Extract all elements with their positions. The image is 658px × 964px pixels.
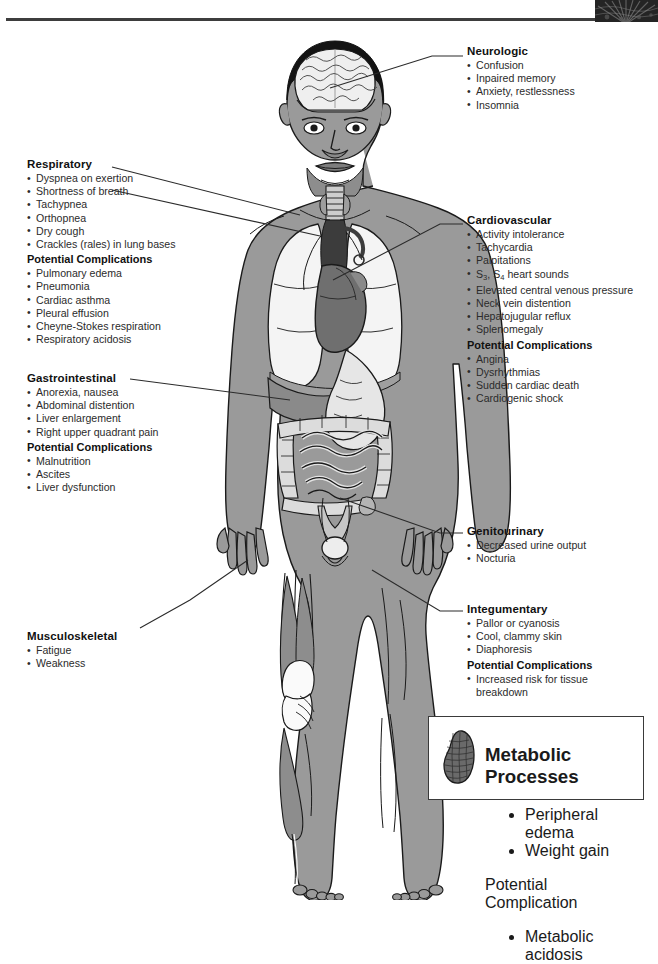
symptom-list: Pallor or cyanosis Cool, clammy skin Dia… bbox=[467, 617, 647, 657]
kidney-icon bbox=[441, 729, 475, 785]
complications-heading: Potential Complications bbox=[467, 339, 647, 352]
header-divider-rule bbox=[6, 18, 640, 21]
complications-heading: Potential Complications bbox=[27, 253, 217, 266]
list-item: Palpitations bbox=[467, 254, 647, 267]
brain bbox=[295, 49, 377, 112]
list-item: Sudden cardiac death bbox=[467, 379, 647, 392]
list-item: Weakness bbox=[27, 657, 207, 670]
list-item: Pallor or cyanosis bbox=[467, 617, 647, 630]
list-item-heart-sounds: S3, S4 heart sounds bbox=[467, 268, 647, 284]
list-item: Liver enlargement bbox=[27, 412, 212, 425]
list-item: Right upper quadrant pain bbox=[27, 426, 212, 439]
callout-heading: Gastrointestinal bbox=[27, 372, 212, 385]
list-item: Liver dysfunction bbox=[27, 481, 212, 494]
list-item: Anxiety, restlessness bbox=[467, 85, 647, 98]
list-item: Pneumonia bbox=[27, 280, 217, 293]
list-item: Insomnia bbox=[467, 99, 647, 112]
list-item: Inpaired memory bbox=[467, 72, 647, 85]
list-item: Diaphoresis bbox=[467, 643, 647, 656]
callout-gastrointestinal: Gastrointestinal Anorexia, nausea Abdomi… bbox=[27, 372, 212, 494]
symptom-list: Fatigue Weakness bbox=[27, 644, 207, 670]
list-item: Shortness of breath bbox=[27, 185, 217, 198]
list-item: Splenomegaly bbox=[467, 323, 647, 336]
callout-heading: Cardiovascular bbox=[467, 214, 647, 227]
list-item: Confusion bbox=[467, 59, 647, 72]
list-item: Cardiac asthma bbox=[27, 294, 217, 307]
list-item: Elevated central venous pressure bbox=[467, 284, 647, 297]
list-item: Hepatojugular reflux bbox=[467, 310, 647, 323]
list-item: Dyspnea on exertion bbox=[27, 172, 217, 185]
complications-heading: Potential Complication bbox=[485, 876, 643, 912]
symptom-list: Decreased urine output Nocturia bbox=[467, 539, 647, 565]
head bbox=[279, 41, 390, 184]
callout-heading: Genitourinary bbox=[467, 525, 647, 538]
metabolic-text: Metabolic Processes Peripheral edema Wei… bbox=[485, 725, 643, 964]
list-item: Anorexia, nausea bbox=[27, 386, 212, 399]
list-item: Peripheral edema bbox=[525, 806, 643, 842]
list-item: Fatigue bbox=[27, 644, 207, 657]
list-item: Orthopnea bbox=[27, 212, 217, 225]
corner-thumbnail-image bbox=[595, 0, 658, 22]
callout-heading: Musculoskeletal bbox=[27, 630, 207, 643]
complications-list: Metabolic acidosis bbox=[485, 928, 643, 964]
list-item: Nocturia bbox=[467, 552, 647, 565]
complications-list: Malnutrition Ascites Liver dysfunction bbox=[27, 455, 212, 495]
list-item: Malnutrition bbox=[27, 455, 212, 468]
callout-musculoskeletal: Musculoskeletal Fatigue Weakness bbox=[27, 630, 207, 670]
list-item: Angina bbox=[467, 353, 647, 366]
list-item: Dysrhythmias bbox=[467, 366, 647, 379]
list-item: Dry cough bbox=[27, 225, 217, 238]
symptom-list: Peripheral edema Weight gain bbox=[485, 806, 643, 860]
list-item: Cheyne-Stokes respiration bbox=[27, 320, 217, 333]
list-item: Cool, clammy skin bbox=[467, 630, 647, 643]
callout-heading: Neurologic bbox=[467, 45, 647, 58]
heart bbox=[315, 220, 367, 352]
complications-heading: Potential Complications bbox=[467, 659, 647, 672]
list-item: Cardiogenic shock bbox=[467, 392, 647, 405]
callout-genitourinary: Genitourinary Decreased urine output Noc… bbox=[467, 525, 647, 565]
complications-list: Increased risk for tissue breakdown bbox=[467, 673, 647, 699]
list-item: Metabolic acidosis bbox=[525, 928, 643, 964]
heart-sound-suffix: heart sounds bbox=[505, 268, 569, 280]
list-item: Respiratory acidosis bbox=[27, 333, 217, 346]
heart-sound-mid: , S bbox=[487, 268, 500, 280]
list-item: Pulmonary edema bbox=[27, 267, 217, 280]
symptom-list: Activity intolerance Tachycardia Palpita… bbox=[467, 228, 647, 337]
list-item: Weight gain bbox=[525, 842, 643, 860]
callout-cardiovascular: Cardiovascular Activity intolerance Tach… bbox=[467, 214, 647, 405]
list-item: Tachypnea bbox=[27, 198, 217, 211]
callout-respiratory: Respiratory Dyspnea on exertion Shortnes… bbox=[27, 158, 217, 346]
list-item: Tachycardia bbox=[467, 241, 647, 254]
list-item: Abdominal distention bbox=[27, 399, 212, 412]
list-item: Decreased urine output bbox=[467, 539, 647, 552]
callout-neurologic: Neurologic Confusion Inpaired memory Anx… bbox=[467, 45, 647, 112]
list-item: Increased risk for tissue breakdown bbox=[467, 673, 647, 699]
list-item: Ascites bbox=[27, 468, 212, 481]
symptom-list: Anorexia, nausea Abdominal distention Li… bbox=[27, 386, 212, 439]
complications-heading: Potential Complications bbox=[27, 441, 212, 454]
list-item: Crackles (rales) in lung bases bbox=[27, 238, 217, 251]
list-item: Neck vein distention bbox=[467, 297, 647, 310]
list-item: Activity intolerance bbox=[467, 228, 647, 241]
list-item: Pleural effusion bbox=[27, 307, 217, 320]
callout-heading: Integumentary bbox=[467, 603, 647, 616]
complications-list: Pulmonary edema Pneumonia Cardiac asthma… bbox=[27, 267, 217, 346]
callout-metabolic-box: Metabolic Processes Peripheral edema Wei… bbox=[428, 716, 644, 800]
callout-heading: Metabolic Processes bbox=[485, 744, 643, 788]
symptom-list: Dyspnea on exertion Shortness of breath … bbox=[27, 172, 217, 251]
complications-list: Angina Dysrhythmias Sudden cardiac death… bbox=[467, 353, 647, 406]
symptom-list: Confusion Inpaired memory Anxiety, restl… bbox=[467, 59, 647, 112]
callout-integumentary: Integumentary Pallor or cyanosis Cool, c… bbox=[467, 603, 647, 699]
callout-heading: Respiratory bbox=[27, 158, 217, 171]
